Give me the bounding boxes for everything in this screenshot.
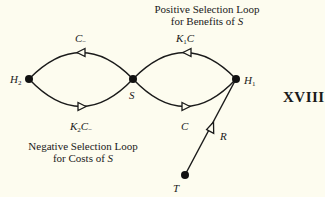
label-k1-c: K1C — [176, 32, 194, 48]
arrow-left-icon — [77, 49, 85, 57]
arrow-left-icon — [183, 49, 191, 57]
node-t — [181, 171, 189, 179]
figure-number: XVIII — [283, 89, 325, 106]
label-k2-c-minus: K2C− — [70, 120, 92, 136]
edge-h2-to-s — [29, 79, 133, 107]
node-h1 — [232, 75, 240, 83]
label-c-minus: C− — [75, 32, 86, 48]
node-s — [129, 75, 137, 83]
edge-s-to-h2 — [29, 53, 133, 80]
positive-caption-line2: for Benefits of S — [133, 15, 281, 27]
node-h2 — [25, 75, 33, 83]
arrow-right-icon — [78, 103, 86, 111]
label-c: C — [181, 120, 188, 132]
edge-s-to-h1 — [133, 79, 236, 107]
label-s: S — [129, 89, 135, 101]
negative-caption-line1: Negative Selection Loop — [26, 140, 140, 152]
label-h1: H1 — [244, 74, 255, 90]
positive-loop-caption: Positive Selection Loop for Benefits of … — [133, 3, 281, 27]
label-t: T — [173, 182, 179, 194]
arrow-right-icon — [182, 103, 190, 111]
label-h2: H2 — [10, 73, 21, 89]
edge-h1-to-s — [133, 53, 236, 80]
positive-caption-line1: Positive Selection Loop — [133, 3, 281, 15]
label-r: R — [220, 130, 227, 142]
negative-caption-line2: for Costs of S — [26, 152, 140, 164]
negative-loop-caption: Negative Selection Loop for Costs of S — [26, 140, 140, 164]
